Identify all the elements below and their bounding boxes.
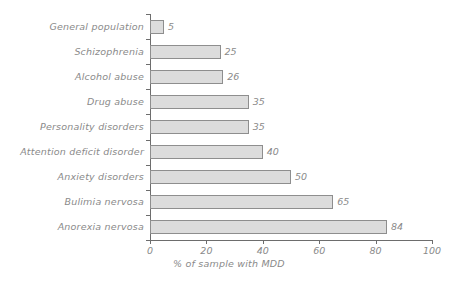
bar-value-label: 35 [253, 97, 265, 107]
bar-value-label: 65 [337, 197, 349, 207]
bar [150, 145, 263, 159]
plot-area: 52526353540506584 020406080100 [150, 14, 432, 240]
bar-value-label: 26 [227, 72, 239, 82]
bar-value-label: 25 [225, 47, 237, 57]
y-axis-tick [146, 39, 150, 40]
x-axis-tick [432, 240, 433, 244]
bar [150, 20, 164, 34]
bar-value-label: 35 [253, 122, 265, 132]
bar-value-label: 50 [295, 172, 307, 182]
x-axis-tick-label: 60 [313, 246, 325, 256]
x-axis-title: % of sample with MDD [0, 259, 458, 269]
y-axis-tick [146, 64, 150, 65]
x-axis-tick-label: 0 [147, 246, 153, 256]
y-axis-tick [146, 89, 150, 90]
bar [150, 220, 387, 234]
x-axis-tick [319, 240, 320, 244]
x-axis-line [150, 240, 433, 241]
bar-value-label: 84 [391, 222, 403, 232]
category-label: General population [0, 22, 144, 32]
bar [150, 95, 249, 109]
category-label: Anxiety disorders [0, 172, 144, 182]
y-axis-tick [146, 114, 150, 115]
bar [150, 45, 221, 59]
bar-value-label: 5 [168, 22, 174, 32]
x-axis-tick-label: 40 [257, 246, 269, 256]
bar [150, 195, 333, 209]
y-axis-tick [146, 190, 150, 191]
x-axis-tick [206, 240, 207, 244]
bar [150, 70, 223, 84]
y-axis-tick [146, 140, 150, 141]
y-axis-tick [146, 165, 150, 166]
x-axis-tick [150, 240, 151, 244]
category-label: Personality disorders [0, 122, 144, 132]
category-label: Anorexia nervosa [0, 222, 144, 232]
category-label: Schizophrenia [0, 47, 144, 57]
y-axis-tick [146, 215, 150, 216]
category-label: Drug abuse [0, 97, 144, 107]
y-axis-tick [146, 14, 150, 15]
category-axis-labels: General populationSchizophreniaAlcohol a… [0, 0, 144, 290]
x-axis-tick-label: 100 [423, 246, 441, 256]
category-label: Attention deficit disorder [0, 147, 144, 157]
category-label: Alcohol abuse [0, 72, 144, 82]
x-axis-tick-label: 80 [370, 246, 382, 256]
bar-chart: General populationSchizophreniaAlcohol a… [0, 0, 458, 290]
bar-value-label: 40 [267, 147, 279, 157]
bar [150, 170, 291, 184]
x-axis-tick-label: 20 [200, 246, 212, 256]
x-axis-tick [376, 240, 377, 244]
bar [150, 120, 249, 134]
x-axis-tick [263, 240, 264, 244]
category-label: Bulimia nervosa [0, 197, 144, 207]
